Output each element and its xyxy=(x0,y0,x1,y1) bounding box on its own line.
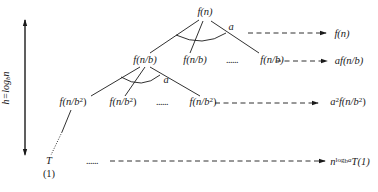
level1-ellipsis: ...... xyxy=(226,54,238,65)
branch-count-label-root: a xyxy=(228,22,233,33)
leaf-node: T xyxy=(46,156,52,167)
root-node: f(n) xyxy=(197,7,212,18)
level-cost-leaves: nlogbaT(1) xyxy=(330,157,369,168)
level1-node: f(n/b) xyxy=(133,55,156,66)
level2-node: f(n/b2) xyxy=(60,97,87,108)
level1-node: f(n/b) xyxy=(260,55,283,66)
leaf-ellipsis: ...... xyxy=(86,155,98,166)
branch-count-label-level1: a xyxy=(163,75,168,86)
level-cost-0: f(n) xyxy=(334,29,349,40)
level-cost-2: a2f(n/b2) xyxy=(330,97,366,108)
level2-ellipsis: ...... xyxy=(156,96,168,107)
level2-node: f(n/b2) xyxy=(190,97,217,108)
level1-node: f(n/b) xyxy=(183,55,206,66)
level2-node: f(n/b2) xyxy=(110,97,137,108)
height-label: h=logbn xyxy=(0,71,12,104)
leaf-node-sub: (1) xyxy=(43,169,55,180)
level-cost-1: af(n/b) xyxy=(335,56,364,67)
